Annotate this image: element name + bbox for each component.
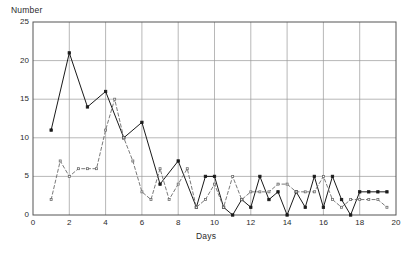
data-point-marker	[186, 168, 188, 170]
data-point-marker	[231, 214, 233, 216]
data-point-marker	[232, 175, 234, 177]
data-point-marker	[241, 199, 243, 201]
data-point-marker	[86, 168, 88, 170]
data-point-marker	[123, 137, 125, 139]
data-point-marker	[114, 98, 116, 100]
data-point-marker	[331, 199, 333, 201]
data-point-marker	[359, 191, 361, 193]
data-point-marker	[259, 191, 261, 193]
data-point-marker	[286, 214, 288, 216]
data-point-marker	[104, 90, 106, 92]
data-point-marker	[250, 206, 252, 208]
data-point-marker	[350, 199, 352, 201]
data-point-marker	[50, 129, 52, 131]
data-point-marker	[386, 191, 388, 193]
data-point-marker	[204, 175, 206, 177]
data-point-marker	[295, 191, 297, 193]
data-point-marker	[223, 206, 225, 208]
data-point-marker	[322, 175, 324, 177]
chart-figure: Number Days 0510152025 02468101214161820	[0, 0, 413, 254]
data-point-marker	[159, 168, 161, 170]
data-point-marker	[268, 191, 270, 193]
data-point-marker	[150, 199, 152, 201]
data-point-marker	[105, 129, 107, 131]
data-point-marker	[68, 175, 70, 177]
data-point-marker	[77, 168, 79, 170]
data-point-marker	[159, 183, 161, 185]
data-point-marker	[331, 175, 333, 177]
data-point-marker	[141, 191, 143, 193]
grid-lines	[33, 22, 396, 215]
data-point-marker	[377, 199, 379, 201]
data-point-marker	[59, 160, 61, 162]
data-point-marker	[168, 199, 170, 201]
data-point-marker	[304, 206, 306, 208]
data-point-marker	[141, 121, 143, 123]
data-point-marker	[368, 191, 370, 193]
data-point-marker	[286, 183, 288, 185]
data-point-marker	[322, 206, 324, 208]
data-point-marker	[195, 206, 197, 208]
data-point-marker	[341, 206, 343, 208]
series-line-solid-series	[51, 53, 387, 215]
data-point-marker	[177, 183, 179, 185]
data-point-marker	[86, 106, 88, 108]
data-point-marker	[50, 199, 52, 201]
data-point-marker	[204, 199, 206, 201]
data-point-marker	[96, 168, 98, 170]
data-point-marker	[68, 52, 70, 54]
data-point-marker	[132, 160, 134, 162]
data-point-marker	[304, 191, 306, 193]
plot-area	[0, 0, 413, 254]
data-point-marker	[359, 199, 361, 201]
data-point-marker	[368, 199, 370, 201]
data-point-marker	[177, 160, 179, 162]
data-point-marker	[268, 198, 270, 200]
data-point-marker	[259, 175, 261, 177]
data-point-marker	[313, 191, 315, 193]
data-point-marker	[340, 198, 342, 200]
data-point-marker	[250, 191, 252, 193]
data-point-marker	[213, 175, 215, 177]
data-point-marker	[214, 183, 216, 185]
data-series-layer	[50, 52, 388, 217]
data-point-marker	[277, 183, 279, 185]
data-point-marker	[277, 191, 279, 193]
data-point-marker	[386, 206, 388, 208]
data-point-marker	[313, 175, 315, 177]
data-point-marker	[377, 191, 379, 193]
data-point-marker	[349, 214, 351, 216]
